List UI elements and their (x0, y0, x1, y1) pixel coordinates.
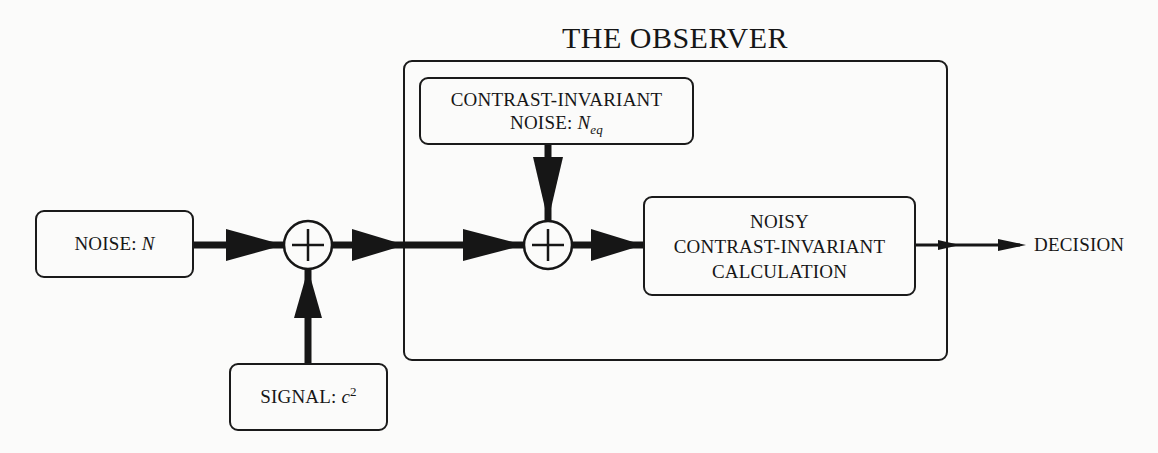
arrow-cn-noise-to-sum2 (533, 145, 563, 221)
signal-symbol: c (341, 386, 350, 407)
arrow-sum2-to-calc (572, 229, 643, 261)
arrow-calc-to-decision (916, 239, 1026, 251)
noisy-calculation-block: NOISY CONTRAST-INVARIANT CALCULATION (643, 196, 916, 296)
contrast-invariant-noise-block: CONTRAST-INVARIANT NOISE: Neq (419, 77, 694, 145)
noise-symbol: N (142, 233, 155, 254)
noise-block: NOISE: N (35, 210, 194, 278)
summing-junction-1 (284, 221, 332, 269)
calc-line2: CONTRAST-INVARIANT (674, 234, 886, 259)
arrow-noise-to-sum1 (194, 229, 284, 261)
arrow-sum1-to-sum2 (332, 229, 524, 261)
noise-label-text: NOISE: (74, 233, 141, 254)
signal-exponent: 2 (350, 384, 357, 399)
calc-line3: CALCULATION (712, 259, 847, 284)
decision-output-label: DECISION (1034, 233, 1124, 257)
cn-noise-symbol: N (577, 112, 590, 133)
cn-noise-subscript: eq (590, 122, 603, 137)
summing-junction-2 (524, 221, 572, 269)
signal-block: SIGNAL: c2 (229, 363, 388, 431)
signal-label-text: SIGNAL: (260, 386, 341, 407)
signal-label: SIGNAL: c2 (260, 385, 357, 409)
arrow-signal-to-sum1 (294, 269, 322, 363)
noise-label: NOISE: N (74, 232, 154, 256)
cn-noise-line1: CONTRAST-INVARIANT (451, 88, 663, 111)
cn-noise-label-text: NOISE: (510, 112, 577, 133)
cn-noise-line2: NOISE: Neq (510, 111, 603, 134)
calc-line1: NOISY (750, 209, 809, 234)
observer-model-diagram: THE OBSERVER (0, 0, 1158, 453)
